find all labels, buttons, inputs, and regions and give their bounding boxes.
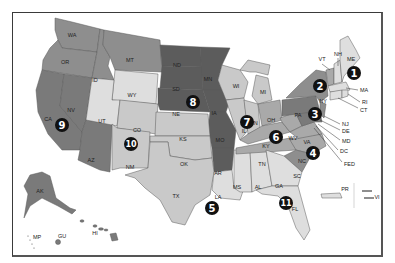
label-nv: NV — [67, 107, 75, 113]
svg-text:5: 5 — [209, 203, 216, 214]
label-tn: TN — [258, 161, 265, 167]
svg-text:4: 4 — [310, 148, 317, 159]
label-sc: SC — [293, 173, 301, 179]
label-nm: NM — [126, 164, 135, 170]
svg-text:2: 2 — [317, 81, 324, 92]
label-oh: OH — [267, 117, 275, 123]
state-ri[interactable] — [342, 90, 348, 98]
state-vi[interactable] — [362, 190, 374, 199]
label-md: MD — [342, 138, 351, 144]
svg-text:8: 8 — [190, 97, 197, 108]
label-hi: HI — [92, 230, 98, 236]
label-gu: GU — [58, 233, 66, 239]
label-nc: NC — [298, 158, 306, 164]
label-ok: OK — [180, 161, 188, 167]
region-badge-8[interactable]: 8 — [186, 95, 200, 109]
state-ct[interactable] — [330, 90, 342, 100]
label-wy: WY — [128, 92, 137, 98]
svg-text:1: 1 — [351, 68, 358, 79]
label-pa: PA — [295, 112, 302, 118]
label-ga: GA — [275, 183, 283, 189]
region-badge-6[interactable]: 6 — [269, 130, 283, 144]
label-mn: MN — [204, 76, 213, 82]
label-or: OR — [61, 59, 69, 65]
state-nd[interactable] — [160, 45, 202, 67]
label-ny: NY — [319, 98, 327, 104]
svg-text:10: 10 — [125, 140, 137, 149]
label-mp: MP — [33, 234, 42, 240]
us-regions-map: WA OR ID MT WY CA NV UT AZ CO NM ND SD N… — [0, 0, 395, 263]
label-ma: MA — [360, 87, 369, 93]
state-sd[interactable] — [160, 66, 203, 90]
state-gu[interactable] — [56, 240, 61, 245]
label-az: AZ — [87, 157, 95, 163]
label-ri: RI — [362, 99, 368, 105]
state-pr[interactable] — [321, 193, 342, 198]
label-vt: VT — [318, 56, 326, 62]
label-fed: FED — [344, 161, 355, 167]
region-badge-11[interactable]: 11 — [279, 196, 293, 210]
svg-text:7: 7 — [244, 117, 251, 128]
state-vt[interactable] — [326, 68, 334, 86]
state-fl[interactable] — [256, 186, 310, 240]
state-ar[interactable] — [212, 148, 234, 172]
state-wy[interactable] — [112, 70, 158, 104]
label-de: DE — [342, 128, 350, 134]
label-pr: PR — [341, 186, 349, 192]
label-me: ME — [347, 56, 356, 62]
region-badge-1[interactable]: 1 — [347, 66, 361, 80]
state-ks[interactable] — [155, 112, 210, 136]
state-hi[interactable] — [80, 220, 118, 241]
region-badge-5[interactable]: 5 — [205, 201, 219, 215]
label-ks: KS — [179, 136, 187, 142]
region-badge-7[interactable]: 7 — [240, 115, 254, 129]
label-ut: UT — [98, 118, 106, 124]
label-vi: VI — [374, 194, 380, 200]
label-ca: CA — [44, 116, 52, 122]
state-wa[interactable] — [55, 18, 100, 52]
label-tx: TX — [172, 193, 179, 199]
region-badge-4[interactable]: 4 — [306, 146, 320, 160]
label-mo: MO — [216, 137, 226, 143]
label-dc: DC — [340, 148, 348, 154]
state-mt[interactable] — [103, 30, 162, 72]
region-badge-9[interactable]: 9 — [55, 118, 69, 132]
svg-text:9: 9 — [59, 120, 66, 131]
label-ia: IA — [211, 110, 217, 116]
label-wa: WA — [68, 32, 77, 38]
label-ms: MS — [233, 184, 242, 190]
label-fl: FL — [292, 206, 298, 212]
label-ne: NE — [172, 111, 180, 117]
label-ct: CT — [360, 107, 368, 113]
region-badge-3[interactable]: 3 — [308, 107, 322, 121]
label-al: AL — [255, 184, 262, 190]
label-nd: ND — [173, 62, 181, 68]
region-badge-10[interactable]: 10 — [124, 137, 138, 151]
label-wi: WI — [233, 83, 240, 89]
label-ky: KY — [262, 143, 270, 149]
label-mt: MT — [126, 57, 135, 63]
label-ak: AK — [36, 188, 44, 194]
label-id: ID — [92, 77, 98, 83]
svg-text:3: 3 — [312, 109, 319, 120]
label-wv: WV — [289, 135, 298, 141]
svg-text:6: 6 — [273, 132, 280, 143]
label-sd: SD — [172, 86, 180, 92]
label-ar: AR — [214, 170, 222, 176]
state-mi[interactable] — [240, 60, 270, 75]
label-la: LA — [215, 194, 222, 200]
label-mi: MI — [260, 89, 267, 95]
label-nj: NJ — [342, 121, 349, 127]
label-il: IL — [242, 128, 247, 134]
state-ak[interactable] — [24, 172, 76, 218]
state-ne[interactable] — [158, 88, 210, 112]
label-va: VA — [304, 139, 311, 145]
svg-text:11: 11 — [280, 199, 292, 208]
label-co: CO — [133, 127, 142, 133]
region-badge-2[interactable]: 2 — [313, 79, 327, 93]
label-nh: NH — [334, 51, 342, 57]
